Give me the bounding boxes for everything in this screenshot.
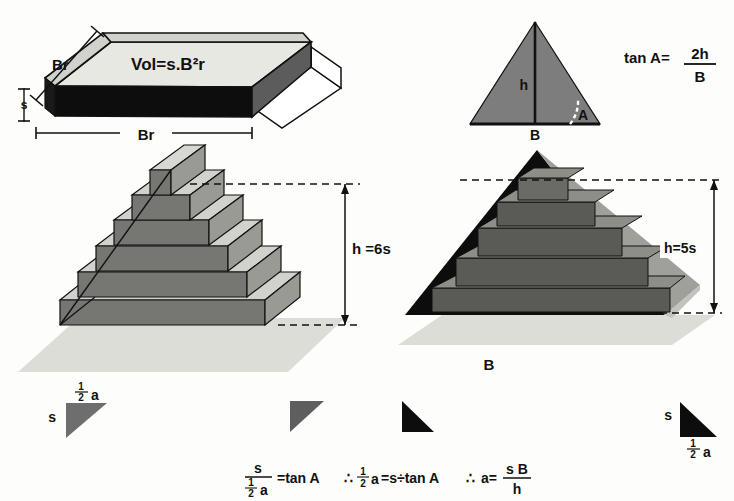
slab-thickness-label: s — [21, 98, 28, 112]
bottom-formula-frac1-den-num: 1 — [248, 477, 254, 488]
right-wedge-half-num: 1 — [690, 438, 696, 449]
figure-canvas: Vol=s.B²r Br s Br h B — [0, 0, 734, 501]
right-tier1-front-face — [518, 178, 568, 200]
right-wedge-half-var: a — [703, 444, 711, 460]
bottom-formula-seg2-den: 2 — [360, 478, 366, 489]
bottom-formula-seg2-var: a — [371, 471, 379, 487]
slab-back-top-sliver — [103, 33, 311, 42]
bottom-formula-therefore2: ∴ — [466, 470, 475, 486]
right-height-label: h=5s — [664, 240, 697, 256]
triangle-height-label: h — [519, 77, 528, 93]
left-wedge-half-var: a — [91, 387, 99, 403]
bottom-formula-frac1-den-var: a — [260, 482, 268, 498]
right-wedge-half-den: 2 — [690, 449, 696, 460]
left-tier5-front-face — [78, 272, 247, 297]
bottom-formula-seg2-num: 1 — [360, 466, 366, 477]
right-tier4-front-face — [456, 258, 648, 286]
slab-width-label: Br — [138, 126, 155, 143]
triangle-base-label: B — [530, 127, 540, 143]
slab-volume-label: Vol=s.B²r — [131, 55, 205, 74]
right-wedge-side-label: s — [664, 407, 672, 423]
slab-depth-label: Br — [52, 56, 69, 73]
right-ground-plane — [398, 315, 715, 345]
bottom-formula-seg3: =s÷tan A — [381, 470, 439, 486]
bottom-formula-frac2-num: s B — [506, 461, 528, 477]
tan-formula-denominator: B — [695, 68, 706, 85]
bottom-formula-therefore1: ∴ — [344, 470, 353, 486]
bottom-formula-frac2-den: h — [513, 481, 522, 497]
left-tier6-front-face — [60, 300, 265, 325]
right-tier2-front-face — [497, 202, 595, 226]
bottom-formula-frac1-den-den: 2 — [248, 488, 254, 499]
left-tier3-front-face — [114, 220, 209, 245]
bottom-formula-seg4: a= — [481, 470, 497, 486]
bottom-formula-frac1-num: s — [254, 460, 262, 476]
triangle-angle-label: A — [578, 107, 588, 123]
tan-formula-numerator: 2h — [691, 45, 709, 62]
right-base-label: B — [484, 356, 495, 373]
left-tier2-front-face — [132, 195, 190, 220]
left-height-label: h =6s — [352, 240, 391, 257]
left-tier4-front-face — [96, 246, 228, 271]
tan-formula-lead: tan A= — [624, 49, 670, 66]
left-wedge-half-den: 2 — [78, 392, 84, 403]
bottom-formula-seg1: =tan A — [277, 470, 320, 486]
right-tier5-front-face — [432, 288, 670, 312]
slab-front-face — [55, 86, 252, 117]
left-wedge-half-num: 1 — [78, 381, 84, 392]
left-wedge-side-label: s — [48, 409, 56, 425]
right-tier3-front-face — [478, 228, 622, 256]
